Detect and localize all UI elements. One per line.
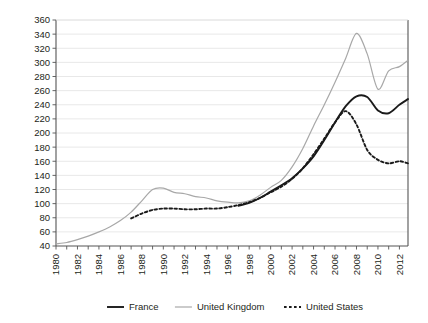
y-tick-label: 180: [34, 142, 50, 153]
y-tick-label: 100: [34, 198, 50, 209]
x-tick-label: 2008: [351, 254, 362, 275]
y-tick-label: 340: [34, 29, 50, 40]
series-line-united-states: [131, 111, 408, 218]
y-tick-label: 280: [34, 71, 50, 82]
legend-label-united-states: United States: [306, 301, 363, 312]
x-tick-label: 1986: [115, 254, 126, 275]
x-tick-label: 2000: [265, 254, 276, 275]
x-tick-label: 1990: [158, 254, 169, 275]
x-tick-label: 1998: [244, 254, 255, 275]
x-tick-label: 2010: [372, 254, 383, 275]
x-tick-label: 2004: [308, 254, 319, 275]
x-tick-label: 2002: [286, 254, 297, 275]
y-tick-label: 140: [34, 170, 50, 181]
series-line-united-kingdom: [56, 33, 408, 243]
chart-root: 4060801001201401601802002202402602803003…: [0, 0, 428, 323]
line-chart: 4060801001201401601802002202402602803003…: [0, 0, 428, 323]
y-tick-label: 220: [34, 113, 50, 124]
x-tick-label: 2012: [394, 254, 405, 275]
x-tick-label: 1994: [201, 254, 212, 275]
chart-legend: FranceUnited KingdomUnited States: [107, 301, 363, 312]
x-tick-label: 1980: [50, 254, 61, 275]
x-tick-label: 1992: [179, 254, 190, 275]
legend-label-france: France: [129, 301, 159, 312]
y-tick-label: 360: [34, 14, 50, 25]
y-axis-labels: 4060801001201401601802002202402602803003…: [34, 14, 50, 251]
gridlines: [56, 20, 408, 232]
y-tick-label: 60: [39, 226, 50, 237]
legend-label-united-kingdom: United Kingdom: [197, 301, 265, 312]
x-tick-label: 1984: [93, 254, 104, 275]
y-tick-label: 300: [34, 57, 50, 68]
y-tick-label: 200: [34, 127, 50, 138]
x-tick-label: 1982: [72, 254, 83, 275]
y-tick-label: 260: [34, 85, 50, 96]
x-axis-labels: 1980198219841986198819901992199419961998…: [50, 254, 404, 275]
y-tick-label: 120: [34, 184, 50, 195]
chart-canvas: 4060801001201401601802002202402602803003…: [0, 0, 428, 323]
x-tick-label: 1996: [222, 254, 233, 275]
y-tick-label: 40: [39, 240, 50, 251]
y-tick-label: 320: [34, 43, 50, 54]
x-tick-label: 1988: [136, 254, 147, 275]
x-tick-label: 2006: [329, 254, 340, 275]
y-tick-label: 160: [34, 156, 50, 167]
data-series: [56, 33, 408, 243]
y-tick-label: 240: [34, 99, 50, 110]
y-tick-label: 80: [39, 212, 50, 223]
